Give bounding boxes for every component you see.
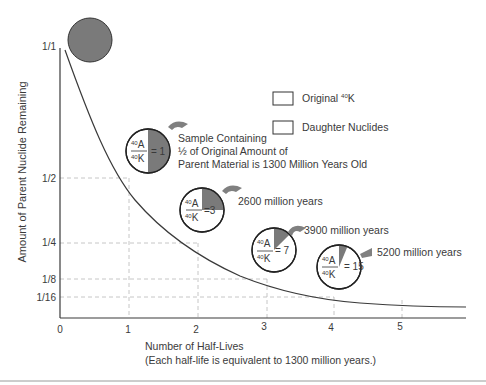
svg-text:=3: =3 [204,205,216,216]
legend-swatch-daughter [273,121,293,134]
svg-text:Sample Containing: Sample Containing [178,132,267,144]
x-axis-sublabel: (Each half-life is equivalent to 1300 mi… [145,354,376,366]
x-tick-3: 3 [261,321,267,332]
sample-2-annotation: 2600 million years [238,195,323,207]
sample-4-annotation: 5200 million years [377,246,462,258]
x-tick-1: 1 [125,324,131,335]
y-axis-label: Amount of Parent Nuclide Remaining [16,82,28,263]
sample-3-annotation: 3900 million years [304,224,389,236]
svg-text:½ of Original Amount of: ½ of Original Amount of [178,145,288,157]
legend-label-original: Original 40K [302,92,355,104]
y-tick-3: 1/4 [42,237,56,248]
svg-text:Parent Material is 1300 Millio: Parent Material is 1300 Million Years Ol… [178,158,367,170]
sample-1-pie: 40A 40K = 1 [126,129,170,173]
y-tick-1: 1/1 [42,41,56,52]
decay-diagram: 1/1 1/2 1/4 1/8 1/16 0 1 2 3 4 5 Amount … [0,0,486,385]
x-tick-5: 5 [397,321,403,332]
legend: Original 40K Daughter Nuclides [273,92,388,134]
arrow-icon [222,186,242,194]
y-tick-4: 1/8 [42,274,56,285]
x-tick-0: 0 [57,324,63,335]
sample-4-pie: 40A 40K = 15 [317,245,364,289]
original-sample-circle [68,18,112,62]
arrow-icon [360,248,372,258]
sample-1-annotation: Sample Containing ½ of Original Amount o… [178,132,367,170]
sample-3-pie: 40A 40K = 7 [252,228,296,272]
x-tick-2: 2 [193,324,199,335]
y-tick-2: 1/2 [42,173,56,184]
axes [60,48,466,318]
y-tick-5: 1/16 [37,292,57,303]
svg-text:= 15: = 15 [344,261,364,272]
svg-text:= 1: = 1 [151,146,166,157]
legend-swatch-original [273,92,293,105]
sample-2-pie: 40A 40K =3 [180,188,224,232]
legend-label-daughter: Daughter Nuclides [302,121,388,133]
x-tick-4: 4 [328,322,334,333]
arrow-icon [168,122,188,130]
svg-text:= 7: = 7 [275,245,290,256]
x-axis-label: Number of Half-Lives [145,340,244,352]
